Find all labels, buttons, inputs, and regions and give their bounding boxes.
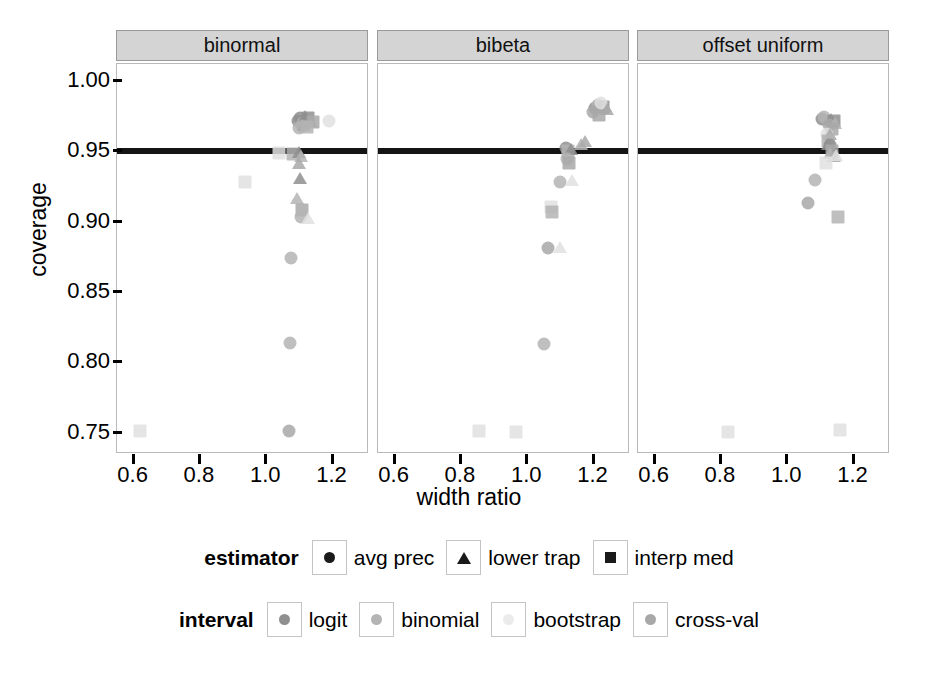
legend-entry-cross-val[interactable]: cross-val [633, 602, 759, 637]
y-axis-tick-label: 0.90 [48, 210, 110, 232]
data-point [300, 121, 313, 134]
legend-interval: intervallogitbinomialbootstrapcross-val [0, 602, 938, 637]
reference-line [638, 148, 888, 154]
legend-label: lower trap [488, 546, 580, 570]
data-point [721, 426, 734, 439]
legend-key-box [593, 540, 628, 575]
legend-key-box [491, 602, 526, 637]
data-point [600, 103, 614, 115]
reference-line [378, 148, 628, 154]
y-axis-tick-mark [113, 360, 122, 363]
y-axis-tick-label: 0.80 [48, 350, 110, 372]
data-point [273, 146, 286, 159]
data-point [801, 197, 814, 210]
legend-label: avg prec [354, 546, 435, 570]
circle-marker-icon [503, 614, 514, 625]
triangle-marker-icon [457, 552, 471, 564]
panel-offset-uniform [637, 63, 889, 453]
data-point [301, 212, 315, 224]
y-axis-tick-mark [113, 149, 122, 152]
y-axis-tick-mark [113, 290, 122, 293]
legend-key-box [267, 602, 302, 637]
legend-label: interp med [635, 546, 734, 570]
legend-key-box [633, 602, 668, 637]
x-axis-label: width ratio [0, 484, 938, 511]
panel-bibeta [377, 63, 629, 453]
square-marker-icon [605, 552, 616, 563]
panel-strip-binormal: binormal [116, 30, 368, 61]
reference-line [117, 148, 367, 154]
y-axis-tick-mark [113, 220, 122, 223]
chart-root: coverage 0.750.800.850.900.951.00 binorm… [0, 0, 938, 682]
legend-title-estimator: estimator [204, 546, 299, 570]
legend-entry-binomial[interactable]: binomial [359, 602, 491, 637]
circle-marker-icon [324, 552, 335, 563]
data-point [831, 210, 844, 223]
y-axis-tick-label: 0.95 [48, 139, 110, 161]
legend-title-interval: interval [179, 608, 254, 632]
legend-entry-avg-prec[interactable]: avg prec [312, 540, 447, 575]
data-point [292, 157, 306, 169]
legend-label: cross-val [675, 608, 759, 632]
data-point [284, 337, 297, 350]
data-point [285, 251, 298, 264]
data-point [290, 192, 304, 204]
legend-estimator: estimatoravg preclower trapinterp med [0, 540, 938, 575]
data-point [820, 157, 833, 170]
y-axis-tick-label: 0.75 [48, 421, 110, 443]
data-point [537, 338, 550, 351]
data-point [238, 175, 251, 188]
circle-marker-icon [645, 614, 656, 625]
legend-label: logit [309, 608, 348, 632]
legend-entry-interp-med[interactable]: interp med [593, 540, 734, 575]
legend-entry-logit[interactable]: logit [267, 602, 360, 637]
data-point [293, 172, 307, 184]
legend-entry-lower-trap[interactable]: lower trap [446, 540, 592, 575]
data-point [809, 174, 822, 187]
data-point [834, 424, 847, 437]
legend-key-box [312, 540, 347, 575]
data-point [546, 205, 559, 218]
legend-key-box [446, 540, 481, 575]
y-axis-tick-mark [113, 431, 122, 434]
legend-key-box [359, 602, 394, 637]
data-point [323, 115, 336, 128]
data-point [578, 135, 592, 147]
legend-label: bootstrap [533, 608, 621, 632]
panel-strip-label: bibeta [476, 34, 531, 57]
panel-strip-offset-uniform: offset uniform [637, 30, 889, 61]
data-point [565, 174, 579, 186]
legend-entry-bootstrap[interactable]: bootstrap [491, 602, 633, 637]
data-point [562, 156, 575, 169]
circle-marker-icon [371, 614, 382, 625]
y-axis-tick-label: 0.85 [48, 280, 110, 302]
data-point [553, 241, 567, 253]
data-point [509, 426, 522, 439]
circle-marker-icon [279, 614, 290, 625]
y-axis-tick-labels: 0.750.800.850.900.951.00 [48, 0, 110, 682]
data-point [134, 424, 147, 437]
panel-strip-bibeta: bibeta [377, 30, 629, 61]
y-axis-tick-label: 1.00 [48, 69, 110, 91]
panel-strip-label: binormal [204, 34, 281, 57]
data-point [282, 425, 295, 438]
y-axis-tick-mark [113, 79, 122, 82]
panel-strip-label: offset uniform [703, 34, 824, 57]
legend-label: binomial [401, 608, 479, 632]
data-point [473, 425, 486, 438]
panel-binormal [116, 63, 368, 453]
